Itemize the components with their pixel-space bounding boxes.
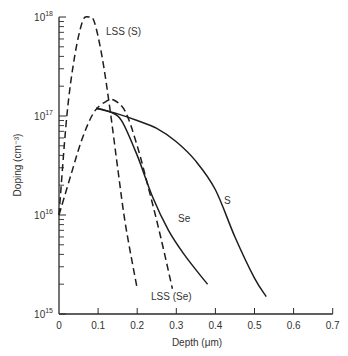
label-s: S [224,195,231,206]
x-tick-label: 0.2 [130,320,144,331]
series-se [96,108,207,284]
curve-labels: LSS (S)LSS (Se)SeS [106,26,231,302]
label-lss-se: LSS (Se) [151,291,192,302]
x-tick-label: 0.1 [91,320,105,331]
x-axis-label: Depth (μm) [172,337,222,348]
axes: 00.10.20.30.40.50.60.71015101610171018 [34,10,340,331]
x-tick-label: 0.3 [169,320,183,331]
y-tick-label: 1016 [34,208,53,221]
y-tick-label: 1018 [34,10,53,23]
y-axis-label: Doping (cm⁻³) [12,134,23,197]
label-lss-s: LSS (S) [106,26,141,37]
x-tick-label: 0.6 [287,320,301,331]
x-tick-label: 0.7 [326,320,340,331]
series-s [96,108,266,296]
x-tick-label: 0.5 [248,320,262,331]
y-tick-label: 1017 [34,109,53,122]
doping-profile-chart: 00.10.20.30.40.50.60.71015101610171018 L… [0,0,348,356]
y-tick-label: 1015 [34,307,53,320]
x-tick-label: 0 [56,320,62,331]
label-se: Se [178,213,191,224]
series-lss-s [59,17,137,289]
x-tick-label: 0.4 [208,320,222,331]
curves [59,17,266,297]
